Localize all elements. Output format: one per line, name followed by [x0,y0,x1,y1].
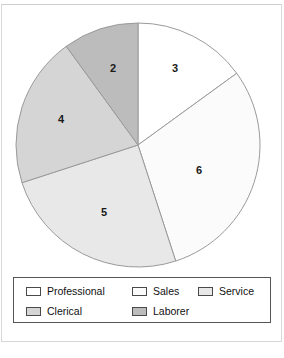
legend-label-professional: Professional [47,286,105,297]
legend-label-service: Service [219,286,254,297]
pie-slice-label-laborer: 2 [110,63,116,74]
legend-label-laborer: Laborer [153,306,189,317]
pie-slice-group [16,23,260,267]
pie-slice-label-sales: 6 [196,165,202,176]
legend-label-sales: Sales [153,286,179,297]
legend-entry-laborer[interactable]: Laborer [132,306,189,317]
legend-entry-professional[interactable]: Professional [26,286,105,297]
chart-legend: ProfessionalSalesService ClericalLaborer [13,277,271,323]
legend-swatch-laborer [132,307,147,316]
pie-slice-label-service: 5 [101,207,107,218]
pie-plot-area: 36542 [0,0,284,270]
legend-swatch-service [198,287,213,296]
legend-row: ProfessionalSalesService [14,281,270,301]
legend-swatch-sales [132,287,147,296]
pie-chart-svg [0,0,284,270]
pie-chart-figure: 36542 ProfessionalSalesService ClericalL… [0,0,284,358]
legend-entry-service[interactable]: Service [198,286,254,297]
pie-slice-label-professional: 3 [172,63,178,74]
legend-entry-sales[interactable]: Sales [132,286,179,297]
pie-slice-label-clerical: 4 [58,114,64,125]
legend-label-clerical: Clerical [47,306,82,317]
legend-row: ClericalLaborer [14,301,270,321]
legend-swatch-professional [26,287,41,296]
legend-entry-clerical[interactable]: Clerical [26,306,82,317]
legend-swatch-clerical [26,307,41,316]
